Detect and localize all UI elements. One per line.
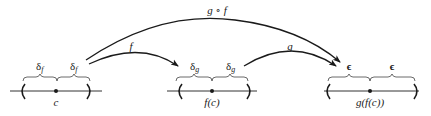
number-line-fc: f(c) δg δg: [167, 60, 257, 109]
composition-diagram: c δf δf f(c) δg δg g(f(c)) ϵ ϵ f g: [0, 0, 431, 116]
arrow-gof-label: g ∘ f: [207, 4, 228, 16]
delta-g-left-label: δg: [190, 60, 199, 74]
arrow-f: f: [89, 40, 178, 66]
point-fc: [210, 89, 214, 93]
arrow-g-curve: [244, 51, 336, 66]
brace-left-epsilon: [328, 74, 370, 81]
number-line-gfc: g(f(c)) ϵ ϵ: [324, 60, 419, 109]
arrow-g-label: g: [287, 40, 293, 52]
brace-right-delta-g: [212, 74, 248, 81]
delta-f-right-label: δf: [70, 60, 79, 74]
arrow-f-label: f: [129, 40, 134, 52]
arrow-f-curve: [89, 52, 178, 66]
delta-g-right-label: δg: [226, 60, 235, 74]
point-label-c: c: [54, 96, 59, 108]
arrow-g: g: [244, 40, 336, 66]
epsilon-left-label: ϵ: [347, 60, 352, 72]
brace-right-epsilon: [370, 74, 415, 81]
number-line-c: c δf δf: [10, 60, 102, 108]
point-label-gfc: g(f(c)): [356, 96, 384, 109]
point-label-fc: f(c): [204, 96, 220, 109]
arrow-gof-curve: [86, 18, 340, 62]
point-gfc: [368, 89, 372, 93]
brace-left-delta-g: [176, 74, 212, 81]
brace-right-delta-f: [57, 74, 90, 81]
point-c: [54, 89, 58, 93]
brace-left-delta-f: [23, 74, 57, 81]
delta-f-left-label: δf: [36, 60, 45, 74]
epsilon-right-label: ϵ: [390, 60, 395, 72]
